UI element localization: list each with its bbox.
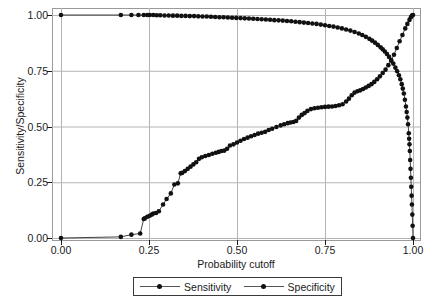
x-axis-tick-label: 0.50 <box>217 244 257 256</box>
data-point-marker <box>310 21 315 26</box>
data-point-marker <box>318 22 323 27</box>
data-point-marker <box>196 14 201 19</box>
x-axis-tickmark <box>237 240 238 245</box>
data-point-marker <box>183 14 188 19</box>
data-point-marker <box>402 91 407 96</box>
data-point-marker <box>272 18 277 23</box>
data-point-marker <box>410 212 415 217</box>
data-point-marker <box>234 16 239 21</box>
y-axis-tick-label: 0.75 <box>12 66 48 76</box>
data-point-marker <box>409 175 414 180</box>
legend-label-specificity: Specificity <box>288 281 335 293</box>
data-point-marker <box>255 17 260 22</box>
data-point-marker <box>404 104 409 109</box>
data-point-marker <box>138 231 143 236</box>
data-point-marker <box>408 167 413 172</box>
data-point-marker <box>171 13 176 18</box>
data-point-marker <box>176 181 181 186</box>
x-axis-tickmark <box>149 240 150 245</box>
data-point-marker <box>323 23 328 28</box>
data-point-marker <box>395 46 400 51</box>
data-point-marker <box>129 232 134 237</box>
y-axis-tick-label: 0.00 <box>12 233 48 243</box>
y-axis-tickmark <box>47 182 52 183</box>
data-point-marker <box>383 67 388 72</box>
data-point-marker <box>192 14 197 19</box>
data-point-marker <box>410 202 415 207</box>
x-axis-tick-label: 0.00 <box>41 244 81 256</box>
data-point-marker <box>209 14 214 19</box>
data-point-marker <box>157 209 162 214</box>
x-axis-tickmark <box>325 240 326 245</box>
data-point-marker <box>408 149 413 154</box>
data-point-marker <box>164 197 169 202</box>
data-point-marker <box>251 16 256 21</box>
y-axis-tick-label: 0.50 <box>12 122 48 132</box>
x-axis-tick-label: 0.75 <box>305 244 345 256</box>
data-point-marker <box>403 97 408 102</box>
data-point-marker <box>407 136 412 141</box>
data-point-marker <box>335 25 340 30</box>
data-point-marker <box>306 21 311 26</box>
data-point-marker <box>268 17 273 22</box>
data-point-marker <box>59 13 64 18</box>
data-point-marker <box>285 19 290 24</box>
data-point-marker <box>340 26 345 31</box>
data-point-marker <box>314 22 319 27</box>
data-point-marker <box>409 184 414 189</box>
legend-entry-sensitivity[interactable]: Sensitivity <box>140 281 231 293</box>
data-point-marker <box>397 39 402 44</box>
data-point-marker <box>280 18 285 23</box>
x-axis-tick-label: 1.00 <box>393 244 433 256</box>
data-point-marker <box>270 126 275 131</box>
data-point-marker <box>226 15 231 20</box>
data-point-marker <box>405 22 410 27</box>
y-axis-tickmark <box>47 71 52 72</box>
data-point-marker <box>400 86 405 91</box>
data-point-marker <box>348 28 353 33</box>
legend-label-sensitivity: Sensitivity <box>184 281 231 293</box>
data-point-marker <box>327 24 332 29</box>
data-point-marker <box>276 18 281 23</box>
data-point-marker <box>213 15 218 20</box>
data-point-marker <box>406 122 411 127</box>
data-point-marker <box>410 223 415 228</box>
data-point-marker <box>352 30 357 35</box>
data-point-marker <box>274 125 279 130</box>
y-axis-tickmark <box>47 127 52 128</box>
data-point-marker <box>409 193 414 198</box>
data-point-marker <box>179 14 184 19</box>
data-point-marker <box>404 110 409 115</box>
data-point-marker <box>175 13 180 18</box>
x-axis-tickmark <box>61 240 62 245</box>
y-axis-tickmark <box>47 15 52 16</box>
data-point-marker <box>302 20 307 25</box>
data-point-marker <box>200 14 205 19</box>
x-axis-label: Probability cutoff <box>52 258 420 270</box>
legend-entry-specificity[interactable]: Specificity <box>244 281 335 293</box>
data-point-marker <box>238 16 243 21</box>
data-point-marker <box>403 26 408 31</box>
y-axis-tick-label: 0.25 <box>12 177 48 187</box>
y-axis-tick-labels: 0.000.250.500.751.00 <box>8 0 48 308</box>
data-point-marker <box>406 131 411 136</box>
plot-frame <box>53 9 421 241</box>
data-point-marker <box>259 17 264 22</box>
x-axis-tick-label: 0.25 <box>129 244 169 256</box>
legend: Sensitivity Specificity <box>133 277 342 296</box>
data-point-marker <box>169 191 174 196</box>
data-point-marker <box>400 33 405 38</box>
data-point-marker <box>158 13 163 18</box>
data-point-marker <box>204 14 209 19</box>
legend-marker-icon-specificity <box>244 282 284 292</box>
roc-sensitivity-specificity-figure: Sensitivity/Specificity 0.000.250.500.75… <box>0 0 435 308</box>
data-point-marker <box>289 19 294 24</box>
data-point-marker <box>166 13 171 18</box>
data-point-marker <box>221 15 226 20</box>
data-point-marker <box>293 19 298 24</box>
data-point-marker <box>395 69 400 74</box>
data-point-marker <box>129 13 134 18</box>
data-point-marker <box>119 235 124 240</box>
data-point-marker <box>397 73 402 78</box>
data-point-marker <box>242 16 247 21</box>
